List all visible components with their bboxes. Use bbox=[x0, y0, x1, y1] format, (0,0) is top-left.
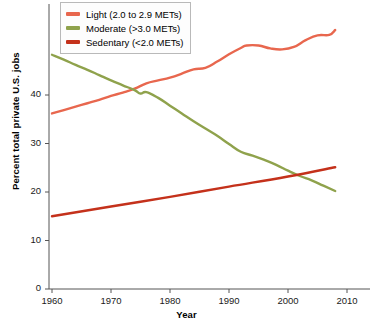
legend-item: Light (2.0 to 2.9 METs) bbox=[66, 7, 183, 21]
y-tick-label: 30 bbox=[15, 137, 41, 148]
chart-legend: Light (2.0 to 2.9 METs)Moderate (>3.0 ME… bbox=[60, 2, 191, 54]
y-tick-label: 20 bbox=[15, 185, 41, 196]
legend-label: Sedentary (<2.0 METs) bbox=[86, 37, 183, 48]
x-tick-label: 1960 bbox=[32, 295, 72, 306]
data-series-group bbox=[52, 30, 335, 216]
chart-figure: Percent total private U.S. jobs Year 010… bbox=[0, 0, 373, 328]
x-tick-label: 1990 bbox=[209, 295, 249, 306]
legend-item: Moderate (>3.0 METs) bbox=[66, 21, 183, 35]
x-axis-tick-marks bbox=[52, 289, 347, 293]
legend-item: Sedentary (<2.0 METs) bbox=[66, 35, 183, 49]
y-tick-label: 10 bbox=[15, 234, 41, 245]
y-tick-label: 40 bbox=[15, 88, 41, 99]
x-tick-label: 1980 bbox=[150, 295, 190, 306]
y-axis-label: Percent total private U.S. jobs bbox=[10, 52, 21, 190]
legend-swatch-icon bbox=[66, 40, 80, 44]
x-tick-label: 1970 bbox=[91, 295, 131, 306]
series-line bbox=[52, 55, 335, 191]
legend-swatch-icon bbox=[66, 26, 80, 30]
x-tick-label: 2000 bbox=[268, 295, 308, 306]
legend-label: Moderate (>3.0 METs) bbox=[86, 23, 180, 34]
legend-label: Light (2.0 to 2.9 METs) bbox=[86, 9, 182, 20]
x-tick-label: 2010 bbox=[327, 295, 367, 306]
x-axis-label: Year bbox=[0, 309, 373, 320]
y-tick-label: 0 bbox=[15, 282, 41, 293]
legend-swatch-icon bbox=[66, 12, 80, 16]
